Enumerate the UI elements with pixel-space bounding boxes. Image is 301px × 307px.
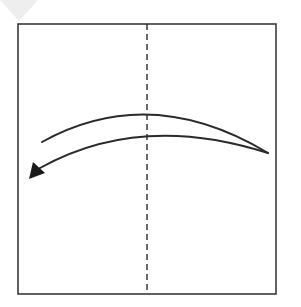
corner-marker — [0, 0, 38, 21]
fold-diagram — [0, 0, 301, 307]
